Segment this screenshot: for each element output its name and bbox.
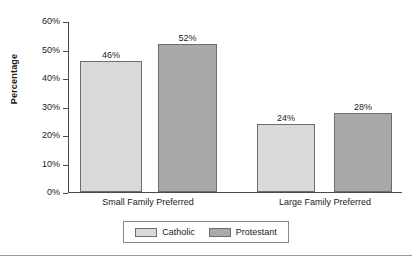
- bar-large-family-catholic[interactable]: 24%: [257, 124, 315, 192]
- legend-label-catholic: Catholic: [162, 227, 195, 237]
- bar-small-family-catholic[interactable]: 46%: [80, 61, 142, 192]
- plot-area: 60% 50% 40% 30% 20% 10% 0% 46%: [68, 22, 402, 193]
- legend-swatch-catholic-icon: [135, 228, 157, 237]
- y-tick-label: 60%: [42, 16, 60, 26]
- y-tick-label: 40%: [42, 73, 60, 83]
- y-tick-mark: [63, 108, 68, 109]
- y-axis-line: [68, 22, 69, 193]
- bar-value-label: 46%: [102, 50, 120, 60]
- bar-chart: Percentage 60% 50% 40% 30% 20% 10%: [0, 0, 412, 261]
- y-tick-label: 50%: [42, 45, 60, 55]
- legend-item-protestant[interactable]: Protestant: [209, 227, 277, 237]
- legend-label-protestant: Protestant: [236, 227, 277, 237]
- chart-legend: Catholic Protestant: [123, 221, 289, 243]
- y-tick-label: 20%: [42, 130, 60, 140]
- y-tick-mark: [63, 193, 68, 194]
- y-tick-label: 10%: [42, 159, 60, 169]
- bar-value-label: 28%: [354, 102, 372, 112]
- bar-small-family-protestant[interactable]: 52%: [158, 44, 217, 192]
- bar-value-label: 24%: [277, 113, 295, 123]
- y-tick-mark: [63, 51, 68, 52]
- y-tick-mark: [63, 79, 68, 80]
- legend-swatch-protestant-icon: [209, 228, 231, 237]
- x-axis-label-group-1: Small Family Preferred: [68, 197, 228, 207]
- y-tick-label: 30%: [42, 102, 60, 112]
- bar-large-family-protestant[interactable]: 28%: [334, 113, 392, 192]
- bar-value-label: 52%: [178, 33, 196, 43]
- y-tick-label: 0%: [47, 187, 60, 197]
- bottom-divider: [0, 255, 412, 256]
- legend-item-catholic[interactable]: Catholic: [135, 227, 195, 237]
- x-axis-line: [68, 192, 402, 193]
- y-axis-title: Percentage: [9, 39, 19, 119]
- y-tick-mark: [63, 22, 68, 23]
- y-tick-mark: [63, 136, 68, 137]
- x-axis-label-group-2: Large Family Preferred: [245, 197, 405, 207]
- y-tick-mark: [63, 165, 68, 166]
